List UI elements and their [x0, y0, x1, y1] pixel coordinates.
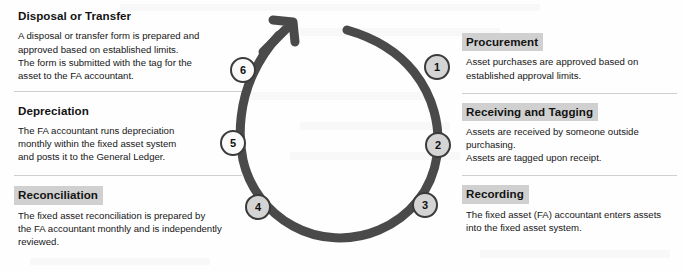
block-heading: Recording	[462, 185, 529, 203]
block-body: The FA accountant runs depreciation mont…	[18, 124, 242, 163]
cycle-arrow-head	[263, 20, 295, 52]
block-heading: Reconciliation	[14, 186, 103, 204]
block-heading: Disposal or Transfer	[14, 7, 136, 25]
block-body: A disposal or transfer form is prepared …	[18, 29, 242, 81]
cycle-arc-svg	[205, 0, 475, 272]
cycle-node-1[interactable]: 1	[424, 54, 450, 80]
section-divider	[14, 91, 242, 92]
section-divider	[14, 175, 242, 176]
block-body: The fixed asset (FA) accountant enters a…	[466, 208, 677, 234]
block-heading: Receiving and Tagging	[462, 103, 598, 121]
left-column: Disposal or Transfer A disposal or trans…	[14, 6, 242, 248]
background-bleed	[300, 122, 450, 130]
diagram-canvas: Disposal or Transfer A disposal or trans…	[0, 0, 684, 272]
step-block-recording: Recording The fixed asset (FA) accountan…	[462, 184, 677, 234]
step-block-disposal-or-transfer: Disposal or Transfer A disposal or trans…	[14, 6, 242, 82]
background-bleed	[290, 152, 460, 160]
block-body: Assets are received by someone outside p…	[466, 125, 677, 164]
block-body: The fixed asset reconciliation is prepar…	[18, 209, 242, 248]
step-block-reconciliation: Reconciliation The fixed asset reconcili…	[14, 185, 242, 248]
block-heading: Procurement	[462, 33, 543, 51]
background-bleed	[30, 258, 210, 265]
background-bleed	[250, 92, 430, 100]
section-divider	[462, 175, 677, 176]
cycle-node-3[interactable]: 3	[412, 192, 438, 218]
background-bleed	[480, 250, 670, 258]
cycle-diagram: 1 2 3 4 5 6	[205, 0, 475, 272]
step-block-depreciation: Depreciation The FA accountant runs depr…	[14, 101, 242, 164]
right-column: Procurement Asset purchases are approved…	[462, 32, 677, 234]
cycle-node-4[interactable]: 4	[245, 194, 271, 220]
step-block-receiving-and-tagging: Receiving and Tagging Assets are receive…	[462, 102, 677, 165]
step-block-procurement: Procurement Asset purchases are approved…	[462, 32, 677, 82]
cycle-arc-path	[240, 30, 438, 238]
section-divider	[462, 93, 677, 94]
block-heading: Depreciation	[14, 102, 94, 120]
block-body: Asset purchases are approved based on es…	[466, 55, 677, 81]
